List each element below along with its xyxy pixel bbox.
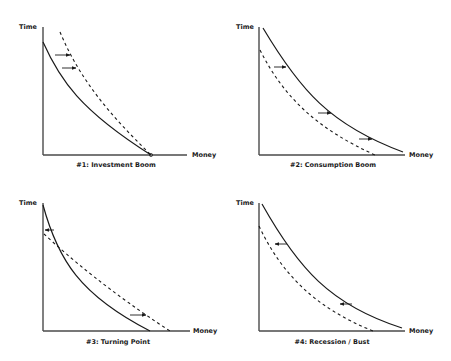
shifted-curve [60,32,151,155]
x-axis-label: Money [192,152,216,159]
original-curve [263,28,403,152]
panel-caption: #4: Recession / Bust [294,339,369,346]
shifted-curve [260,50,375,155]
y-axis-label: Time [19,24,37,31]
panel-turning-point [43,203,190,331]
x-axis-label: Money [409,328,433,335]
panel-recession-bust [259,203,405,331]
shifted-curve [44,234,170,331]
original-curve [43,42,151,155]
y-axis-label: Time [236,24,254,31]
original-curve [262,204,402,328]
panel-caption: #2: Consumption Boom [290,162,376,169]
y-axis-label: Time [19,200,37,207]
x-axis-label: Money [409,152,433,159]
panel-consumption-boom [259,27,405,155]
original-curve [43,205,150,331]
x-axis-label: Money [193,328,217,335]
y-axis-label: Time [236,200,254,207]
panel-investment-boom [43,27,187,157]
panel-caption: #3: Turning Point [86,339,150,346]
panel-caption: #1: Investment Boom [76,162,155,169]
